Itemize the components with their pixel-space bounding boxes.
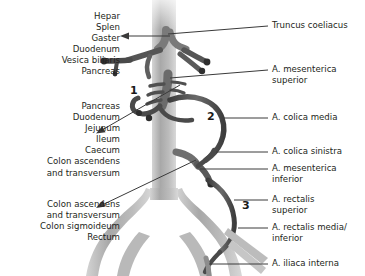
artery-label-a-rectalis-media-inferior: A. rectalis media/ inferior [272,222,347,244]
artery-label-truncus-coeliacus: Truncus coeliacus [272,20,348,31]
region-marker-2: 2 [207,110,215,123]
organ-line: Gaster [62,33,120,44]
organ-line: and transversum [40,210,120,221]
region-marker-3: 3 [242,199,250,212]
artery-label-a-rectalis-superior: A. rectalis superior [272,194,314,216]
artery-line: superior [272,75,337,86]
artery-label-a-iliaca-interna: A. iliaca interna [272,258,339,269]
artery-label-a-colica-sinistra: A. colica sinistra [272,146,342,157]
artery-line: A. colica sinistra [272,146,342,157]
anatomy-diagram: Hepar Splen Gaster Duodenum Vesica bilia… [0,0,365,276]
artery-line: superior [272,205,314,216]
artery-line: A. mesenterica [272,163,337,174]
artery-line: Truncus coeliacus [272,20,348,31]
organ-line: Ileum [47,134,120,145]
organ-group-celiac: Hepar Splen Gaster Duodenum Vesica bilia… [62,11,120,78]
artery-line: inferior [272,233,347,244]
artery-label-a-mesenterica-inferior: A. mesenterica inferior [272,163,337,185]
organ-line: Caecum [47,145,120,156]
artery-line: inferior [272,174,337,185]
a-iliaca-interna-vessel [206,258,209,276]
artery-line: A. rectalis media/ [272,222,347,233]
organ-line: Vesica biliaris [62,55,120,66]
organ-line: Pancreas [62,66,120,77]
organ-line: Pancreas [47,101,120,112]
organ-line: Colon sigmoideum [40,221,120,232]
artery-line: A. iliaca interna [272,258,339,269]
artery-line: A. rectalis [272,194,314,205]
organ-group-inferior-mesenteric: Colon ascendens and transversum Colon si… [40,199,120,243]
organ-group-superior-mesenteric: Pancreas Duodenum Jejunum Ileum Caecum C… [47,101,120,179]
organ-line: Colon ascendens [40,199,120,210]
artery-label-a-colica-media: A. colica media [272,112,337,123]
organ-line: Jejunum [47,123,120,134]
organ-line: Duodenum [47,112,120,123]
artery-line: A. colica media [272,112,337,123]
organ-line: Duodenum [62,44,120,55]
organ-line: Rectum [40,232,120,243]
organ-line: and transversum [47,168,120,179]
organ-line: Splen [62,22,120,33]
artery-line: A. mesenterica [272,64,337,75]
organ-line: Hepar [62,11,120,22]
organ-line: Colon ascendens [47,156,120,167]
artery-label-a-mesenterica-superior: A. mesenterica superior [272,64,337,86]
region-marker-1: 1 [130,84,138,97]
